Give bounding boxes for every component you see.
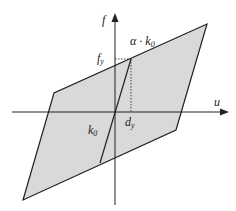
alpha-k0-label: α · k0 xyxy=(130,34,155,49)
x-axis-arrow-icon xyxy=(220,109,229,116)
y-axis-arrow-icon xyxy=(112,13,119,22)
y-axis-label: f xyxy=(102,13,107,27)
x-axis-label: u xyxy=(214,95,220,109)
hysteresis-diagram: f u α · k0 fy dy k0 xyxy=(0,0,236,211)
fy-label: fy xyxy=(97,51,104,66)
